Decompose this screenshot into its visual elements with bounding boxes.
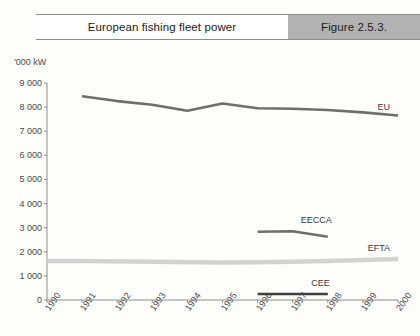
series-line-eecca: [258, 231, 328, 237]
chart-area: '000 kW 01 0002 0003 0004 0005 0006 0007…: [0, 0, 420, 336]
chart-series-lines: [47, 96, 398, 294]
series-line-efta: [47, 259, 398, 262]
series-line-eu: [82, 96, 398, 115]
chart-svg: [0, 0, 420, 336]
chart-axes: [44, 83, 398, 303]
